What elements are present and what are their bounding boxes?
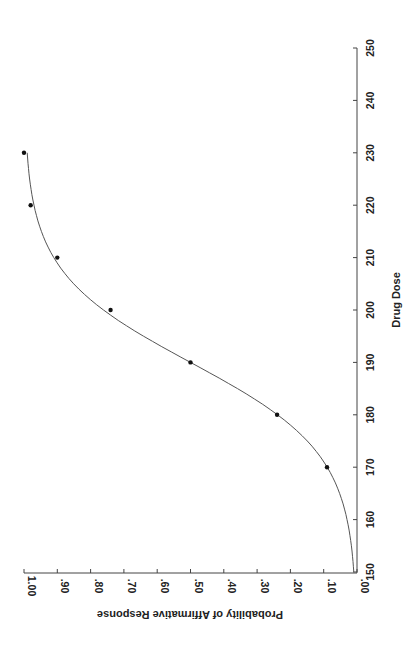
probability-tick-label: .20 bbox=[292, 579, 304, 594]
probability-tick-label: .30 bbox=[259, 579, 271, 594]
data-point bbox=[275, 413, 279, 417]
data-point bbox=[22, 151, 26, 155]
dose-tick-label: 170 bbox=[364, 458, 376, 476]
data-points bbox=[22, 151, 329, 470]
probability-tick-label: .50 bbox=[193, 579, 205, 594]
x-axis-title: Drug Dose bbox=[390, 272, 402, 328]
data-point bbox=[28, 203, 32, 207]
dose-response-chart: 150160170180190200210220230240250.00.10.… bbox=[0, 0, 411, 647]
y-axis-title: Probability of Affirmative Response bbox=[97, 609, 283, 621]
probability-tick-label: .00 bbox=[359, 579, 371, 594]
dose-tick-label: 190 bbox=[364, 353, 376, 371]
probability-tick-label: .10 bbox=[326, 579, 338, 594]
data-point bbox=[108, 308, 112, 312]
axes bbox=[24, 48, 357, 573]
probability-tick-label: .60 bbox=[159, 579, 171, 594]
probability-tick-label: .40 bbox=[226, 579, 238, 594]
dose-tick-label: 200 bbox=[364, 301, 376, 319]
dose-tick-label: 210 bbox=[364, 249, 376, 267]
dose-tick-label: 220 bbox=[364, 196, 376, 214]
dose-tick-label: 180 bbox=[364, 406, 376, 424]
probability-tick-label: 1.00 bbox=[26, 576, 38, 597]
probability-tick-label: .70 bbox=[126, 579, 138, 594]
dose-tick-label: 250 bbox=[364, 39, 376, 57]
data-point bbox=[325, 465, 329, 469]
dose-tick-label: 230 bbox=[364, 144, 376, 162]
axis-ticks: 150160170180190200210220230240250.00.10.… bbox=[24, 39, 376, 596]
dose-tick-label: 160 bbox=[364, 511, 376, 529]
dose-tick-label: 240 bbox=[364, 91, 376, 109]
probability-tick-label: .90 bbox=[59, 579, 71, 594]
data-point bbox=[188, 360, 192, 364]
data-point bbox=[55, 255, 59, 259]
probability-tick-label: .80 bbox=[93, 579, 105, 594]
